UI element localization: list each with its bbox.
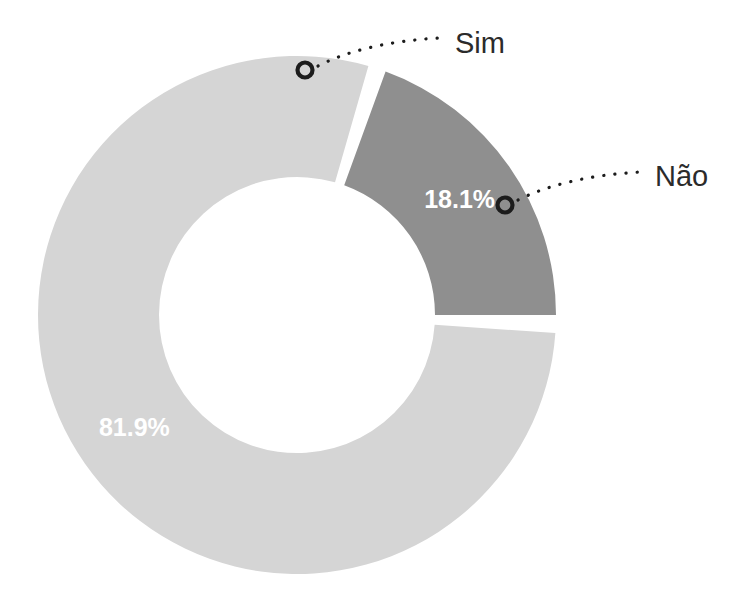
category-label-nao: Não <box>655 160 708 192</box>
donut-chart-canvas: 81.9% 18.1% Sim Não <box>0 0 740 608</box>
donut-chart: 81.9% 18.1% Sim Não <box>0 0 740 608</box>
slice-value-label-sim: 81.9% <box>99 413 170 441</box>
category-label-sim: Sim <box>455 27 505 59</box>
slice-value-label-nao: 18.1% <box>424 185 495 213</box>
